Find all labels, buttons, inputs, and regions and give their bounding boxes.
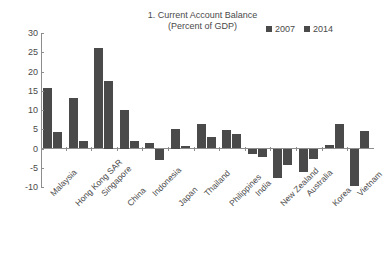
bar-2007 xyxy=(171,129,180,148)
bar-2007 xyxy=(325,145,334,149)
chart-figure: 1. Current Account Balance (Percent of G… xyxy=(0,0,386,256)
chart-title-line-1: 1. Current Account Balance xyxy=(100,10,305,21)
bar-2014 xyxy=(79,141,88,149)
y-axis-tick-mark xyxy=(41,33,44,34)
bar-2014 xyxy=(360,131,369,148)
y-axis-tick-label: 20 xyxy=(28,67,38,77)
bar-2014 xyxy=(309,149,318,160)
y-axis-tick-mark xyxy=(41,110,44,111)
bar-group xyxy=(246,33,272,187)
bar-group xyxy=(348,33,374,187)
bar-2014 xyxy=(155,149,164,161)
legend-swatch-icon xyxy=(266,26,272,32)
bar-2014 xyxy=(283,149,292,165)
bar-groups xyxy=(41,33,374,187)
bar-2014 xyxy=(104,81,113,148)
bar-group xyxy=(297,33,323,187)
bar-2014 xyxy=(130,141,139,149)
y-axis-tick-mark xyxy=(41,129,44,130)
bar-group xyxy=(271,33,297,187)
y-axis-tick-label: 5 xyxy=(33,124,38,134)
bar-group xyxy=(143,33,169,187)
bar-2007 xyxy=(299,149,308,173)
bar-group xyxy=(41,33,67,187)
y-axis-tick-mark xyxy=(41,168,44,169)
y-axis-tick-label: 30 xyxy=(28,28,38,38)
bar-group xyxy=(220,33,246,187)
y-axis-tick-label: 10 xyxy=(28,105,38,115)
y-axis-tick-label: 0 xyxy=(33,144,38,154)
bar-2007 xyxy=(145,143,154,149)
y-axis-tick-label: 15 xyxy=(28,86,38,96)
bar-group xyxy=(169,33,195,187)
bar-2007 xyxy=(69,98,78,148)
x-axis-labels: MalaysiaHong Kong SARSingaporeChinaIndon… xyxy=(41,189,374,255)
bar-group xyxy=(323,33,349,187)
bar-2014 xyxy=(181,146,190,149)
bar-2007 xyxy=(120,110,129,149)
y-axis-tick-mark xyxy=(41,72,44,73)
legend-swatch-icon xyxy=(304,26,310,32)
bar-2007 xyxy=(197,124,206,148)
bar-2014 xyxy=(258,149,267,157)
bar-2014 xyxy=(232,134,241,149)
y-axis-tick-mark xyxy=(41,149,44,150)
plot-area xyxy=(41,33,374,187)
bar-2007 xyxy=(94,48,103,148)
x-axis-label: Japan xyxy=(176,185,199,208)
bar-group xyxy=(195,33,221,187)
bar-2007 xyxy=(248,149,257,154)
bar-2014 xyxy=(53,132,62,148)
bar-2007 xyxy=(222,130,231,149)
bar-2007 xyxy=(43,88,52,149)
y-axis-tick-label: -5 xyxy=(30,163,38,173)
y-axis-tick-mark xyxy=(41,52,44,53)
bar-group xyxy=(67,33,93,187)
bar-2007 xyxy=(350,149,359,187)
x-axis-label: Korea xyxy=(330,185,353,208)
y-axis-tick-label: -10 xyxy=(25,182,38,192)
bar-2014 xyxy=(335,124,344,148)
y-axis-tick-mark xyxy=(41,91,44,92)
y-axis-tick-label: 25 xyxy=(28,47,38,57)
bar-2007 xyxy=(273,149,282,179)
bar-2014 xyxy=(207,137,216,149)
x-axis-label: China xyxy=(125,185,148,208)
y-axis-tick-mark xyxy=(41,187,44,188)
y-axis-labels: 302520151050-5-10 xyxy=(0,0,38,220)
